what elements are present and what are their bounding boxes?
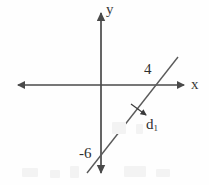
scan-artifact [156, 169, 170, 177]
line-name-label: d1 [146, 117, 158, 132]
graph-canvas [0, 0, 209, 185]
scan-artifact [136, 124, 143, 134]
y-axis-label: y [106, 2, 114, 17]
scan-artifact [70, 166, 79, 178]
x-intercept-label: 4 [144, 62, 152, 77]
line-name-base: d [146, 116, 154, 132]
scan-artifact [50, 170, 60, 178]
line-name-subscript: 1 [154, 123, 159, 133]
scan-artifact [124, 166, 146, 177]
scan-artifact [112, 122, 126, 134]
cartesian-plane-figure: y x 4 -6 d1 [0, 0, 209, 185]
y-intercept-label: -6 [79, 146, 92, 161]
scan-artifact [22, 168, 38, 177]
x-axis-label: x [191, 77, 199, 92]
